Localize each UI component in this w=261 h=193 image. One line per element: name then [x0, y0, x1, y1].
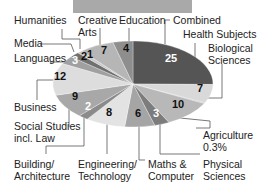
value-label: 2	[85, 100, 91, 112]
category-label: Media	[14, 37, 43, 49]
category-label: Business	[14, 101, 57, 113]
category-label: CreativeArts	[78, 14, 117, 38]
header-bar	[73, 0, 192, 13]
value-label: 4	[123, 42, 130, 54]
category-label: Combined	[173, 14, 221, 26]
category-label: Building/Architecture	[14, 158, 70, 182]
value-label: 6	[135, 107, 141, 119]
category-label: Languages	[14, 52, 66, 64]
category-label: Agriculture0.3%	[203, 129, 253, 153]
category-label: PhysicalSciences	[203, 158, 246, 182]
category-label: Humanities	[14, 14, 67, 26]
category-label: Education	[119, 14, 166, 26]
value-label: 1	[87, 48, 93, 60]
value-label: 9	[72, 90, 78, 102]
category-label: Engineering/Technology	[78, 158, 137, 182]
category-label: Maths &Computer	[148, 158, 195, 182]
value-label: 7	[101, 44, 107, 56]
category-label: BiologicalSciences	[208, 42, 253, 66]
value-label: 25	[165, 52, 177, 64]
value-label: 7	[197, 82, 203, 94]
value-label: 12	[54, 70, 66, 82]
pie-chart: 25710368291232174 HumanitiesCreativeArts…	[0, 0, 261, 193]
category-label: Social Studiesincl. Law	[14, 120, 81, 144]
value-label: 8	[106, 106, 112, 118]
value-label: 3	[72, 54, 78, 66]
value-label: 10	[172, 98, 184, 110]
category-label: Health Subjects	[183, 28, 257, 40]
value-label: 3	[153, 107, 159, 119]
